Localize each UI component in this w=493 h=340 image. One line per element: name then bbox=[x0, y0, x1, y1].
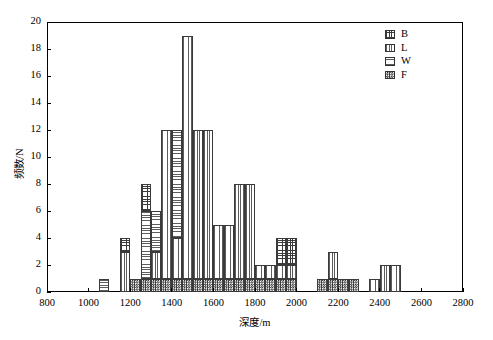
bar-segment bbox=[151, 252, 161, 279]
x-tick-mark bbox=[296, 288, 297, 292]
x-tick-mark bbox=[88, 288, 89, 292]
legend-label: F bbox=[401, 69, 407, 81]
y-tick-mark bbox=[47, 103, 51, 104]
x-tick-mark bbox=[255, 288, 256, 292]
x-tick-mark bbox=[379, 288, 380, 292]
x-tick-mark bbox=[421, 288, 422, 292]
bar-segment bbox=[276, 279, 286, 293]
legend-label: B bbox=[401, 28, 408, 40]
legend-swatch-f-icon bbox=[385, 71, 395, 80]
legend-item-b[interactable]: B bbox=[385, 29, 455, 40]
bar-segment bbox=[234, 279, 244, 293]
y-tick-label: 18 bbox=[3, 42, 41, 53]
bar-segment bbox=[390, 265, 400, 292]
x-axis-title: 深度/m bbox=[225, 314, 285, 329]
bar-segment bbox=[172, 238, 182, 279]
legend-swatch-w-icon bbox=[385, 57, 395, 66]
bar-segment bbox=[161, 130, 171, 279]
bar-segment bbox=[213, 225, 223, 279]
y-tick-mark bbox=[47, 292, 51, 293]
bar-segment bbox=[203, 279, 213, 293]
y-tick-label: 20 bbox=[3, 15, 41, 26]
bar-segment bbox=[255, 279, 265, 293]
bar-segment bbox=[369, 279, 379, 293]
bar-segment bbox=[255, 265, 265, 279]
legend-item-l[interactable]: L bbox=[385, 43, 455, 54]
bar-segment bbox=[120, 252, 130, 293]
bar-segment bbox=[349, 279, 359, 293]
bar-segment bbox=[130, 279, 140, 293]
bar-segment bbox=[193, 130, 203, 279]
bar-segment bbox=[141, 211, 151, 279]
legend-item-w[interactable]: W bbox=[385, 56, 455, 67]
bar-segment bbox=[317, 279, 327, 293]
y-tick-label: 2 bbox=[3, 258, 41, 269]
y-tick-label: 16 bbox=[3, 69, 41, 80]
histogram-figure: 8001000120014001600180020002200240026002… bbox=[0, 0, 493, 340]
legend-label: W bbox=[401, 55, 411, 67]
bar-segment bbox=[161, 279, 171, 293]
bar-segment bbox=[286, 279, 296, 293]
bar-segment bbox=[286, 238, 296, 265]
legend-swatch-l-icon bbox=[385, 44, 395, 53]
x-tick-mark bbox=[171, 288, 172, 292]
y-tick-mark bbox=[47, 211, 51, 212]
y-tick-mark bbox=[47, 49, 51, 50]
bar-segment bbox=[224, 279, 234, 293]
bar-segment bbox=[193, 279, 203, 293]
x-tick-mark bbox=[338, 288, 339, 292]
y-tick-label: 4 bbox=[3, 231, 41, 242]
bar-segment bbox=[265, 265, 275, 279]
y-tick-label: 12 bbox=[3, 123, 41, 134]
y-tick-mark bbox=[47, 238, 51, 239]
bar-segment bbox=[151, 211, 161, 252]
x-tick-label: 2800 bbox=[438, 297, 488, 308]
bar-segment bbox=[380, 265, 390, 292]
bar-segment bbox=[182, 36, 192, 279]
bar-segment bbox=[328, 252, 338, 279]
bar-segment bbox=[338, 279, 348, 293]
bar-segment bbox=[141, 279, 151, 293]
bar-segment bbox=[328, 279, 338, 293]
bar-segment bbox=[182, 279, 192, 293]
y-tick-label: 6 bbox=[3, 204, 41, 215]
x-tick-mark bbox=[463, 288, 464, 292]
y-tick-mark bbox=[47, 130, 51, 131]
x-tick-mark bbox=[213, 288, 214, 292]
bar-segment bbox=[286, 265, 296, 279]
bar-segment bbox=[213, 279, 223, 293]
bar-segment bbox=[265, 279, 275, 293]
bar-segment bbox=[172, 279, 182, 293]
legend-item-f[interactable]: F bbox=[385, 70, 455, 81]
y-tick-mark bbox=[47, 265, 51, 266]
bar-segment bbox=[172, 130, 182, 238]
bar-segment bbox=[276, 265, 286, 279]
y-tick-mark bbox=[47, 157, 51, 158]
y-tick-label: 0 bbox=[3, 285, 41, 296]
y-axis-title: 频数/N bbox=[11, 149, 26, 180]
x-tick-mark bbox=[130, 288, 131, 292]
y-tick-mark bbox=[47, 184, 51, 185]
bar-segment bbox=[203, 130, 213, 279]
bar-segment bbox=[245, 184, 255, 279]
bar-segment bbox=[99, 279, 109, 293]
y-tick-mark bbox=[47, 22, 51, 23]
bar-segment bbox=[151, 279, 161, 293]
legend-label: L bbox=[401, 42, 407, 54]
bar-segment bbox=[120, 238, 130, 252]
bar-segment bbox=[234, 184, 244, 279]
legend: BLWF bbox=[385, 29, 455, 83]
bar-segment bbox=[245, 279, 255, 293]
bar-segment bbox=[141, 184, 151, 211]
legend-swatch-b-icon bbox=[385, 30, 395, 39]
bar-segment bbox=[224, 225, 234, 279]
y-tick-label: 14 bbox=[3, 96, 41, 107]
bar-segment bbox=[276, 238, 286, 265]
y-tick-mark bbox=[47, 76, 51, 77]
